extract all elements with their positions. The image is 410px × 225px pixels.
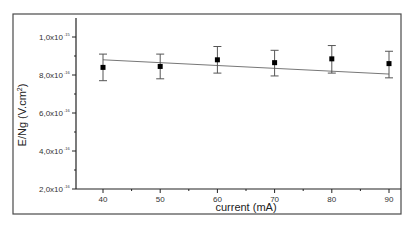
y-tick-label: 4,0x10 <box>39 147 64 156</box>
square-marker <box>101 65 106 70</box>
square-marker <box>158 64 163 69</box>
chart: 2,0x10-164,0x10-166,0x10-168,0x10-161,0x… <box>0 0 410 225</box>
y-tick-label: 2,0x10 <box>39 185 64 194</box>
y-tick-exponent: -16 <box>64 146 71 151</box>
y-tick-exponent: -15 <box>64 32 71 37</box>
square-marker <box>329 56 334 61</box>
data-points <box>99 46 393 81</box>
linear-fit-line <box>103 60 389 74</box>
y-tick-exponent: -16 <box>64 184 71 189</box>
y-tick-label: 6,0x10 <box>39 109 64 118</box>
fit-line <box>103 60 389 74</box>
x-axis-title: current (mA) <box>215 201 276 213</box>
square-marker <box>272 60 277 65</box>
data-point <box>156 54 164 79</box>
y-axis-title: E/Ng (V.cm2) <box>16 84 28 147</box>
y-tick-label: 1,0x10 <box>39 33 64 42</box>
data-point <box>213 47 221 74</box>
y-tick-exponent: -16 <box>64 70 71 75</box>
square-marker <box>387 61 392 66</box>
y-axis-ticks: 2,0x10-164,0x10-166,0x10-168,0x10-161,0x… <box>39 32 76 194</box>
data-point <box>99 54 107 81</box>
square-marker <box>215 57 220 62</box>
y-tick-exponent: -16 <box>64 108 71 113</box>
axes <box>76 18 401 189</box>
chart-frame <box>13 14 401 214</box>
data-point <box>328 46 336 74</box>
x-tick-label: 40 <box>99 195 108 204</box>
data-point <box>271 50 279 76</box>
x-tick-label: 80 <box>327 195 336 204</box>
x-tick-label: 90 <box>385 195 394 204</box>
x-tick-label: 50 <box>156 195 165 204</box>
y-tick-label: 8,0x10 <box>39 71 64 80</box>
